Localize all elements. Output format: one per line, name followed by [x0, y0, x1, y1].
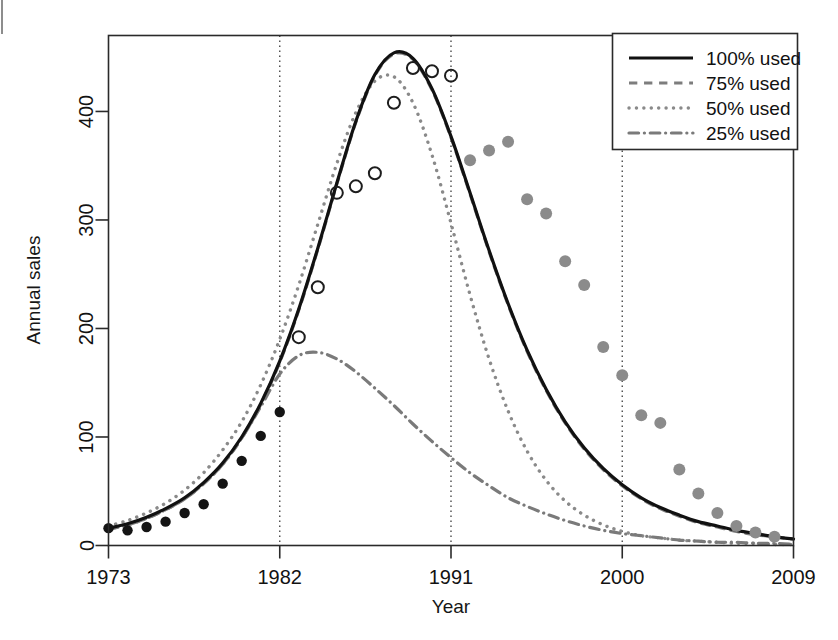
x-tick-label-1973: 1973: [86, 566, 131, 588]
x-tick-label-1982: 1982: [258, 566, 303, 588]
data-point: [654, 417, 666, 429]
data-point: [198, 499, 208, 509]
legend-label-100-used: 100% used: [706, 48, 801, 69]
data-point: [749, 526, 761, 538]
data-point: [256, 431, 266, 441]
legend-label-75-used: 75% used: [706, 73, 791, 94]
y-tick-label-200: 200: [76, 312, 98, 345]
data-point: [160, 516, 170, 526]
data-point: [692, 487, 704, 499]
x-tick-label-1991: 1991: [429, 566, 474, 588]
x-tick-label-2009: 2009: [771, 566, 816, 588]
data-point: [540, 207, 552, 219]
data-point: [502, 136, 514, 148]
annual-sales-chart: 19731982199120002009 0100200300400 Year …: [0, 0, 838, 640]
data-point: [464, 154, 476, 166]
legend-label-50-used: 50% used: [706, 98, 791, 119]
data-point: [711, 507, 723, 519]
data-point: [141, 522, 151, 532]
data-point: [597, 341, 609, 353]
x-axis-title: Year: [432, 596, 471, 617]
data-point: [122, 525, 132, 535]
data-point: [578, 279, 590, 291]
y-axis-title: Annual sales: [23, 236, 44, 345]
data-point: [768, 531, 780, 543]
data-point: [275, 407, 285, 417]
data-point: [635, 409, 647, 421]
x-tick-label-2000: 2000: [600, 566, 645, 588]
data-point: [730, 520, 742, 532]
legend[interactable]: 100% used75% used50% used25% used: [613, 34, 802, 150]
data-point: [673, 464, 685, 476]
data-point: [217, 478, 227, 488]
legend-label-25-used: 25% used: [706, 123, 791, 144]
data-point: [236, 456, 246, 466]
y-tick-label-0: 0: [76, 540, 98, 551]
data-point: [179, 508, 189, 518]
y-tick-label-100: 100: [76, 420, 98, 453]
data-point: [483, 145, 495, 157]
data-point: [616, 369, 628, 381]
y-tick-label-300: 300: [76, 203, 98, 236]
y-tick-label-400: 400: [76, 95, 98, 128]
data-point: [559, 255, 571, 267]
data-point: [521, 193, 533, 205]
